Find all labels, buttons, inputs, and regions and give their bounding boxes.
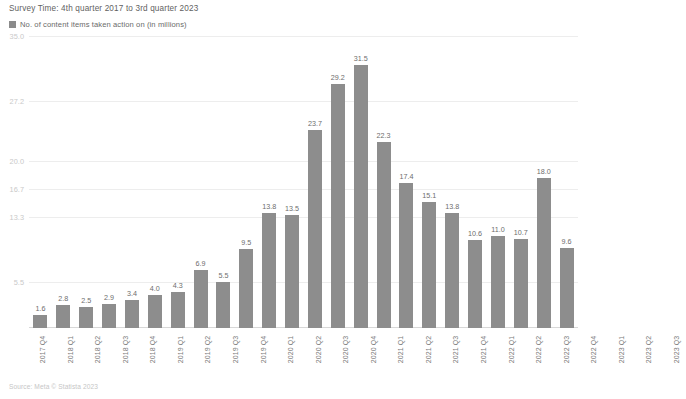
bar-value-label: 22.3 <box>377 131 391 140</box>
y-axis-tick-label: 13.3 <box>10 213 24 222</box>
x-axis-tick-label: 2023 Q1 <box>618 336 625 364</box>
x-axis-tick-label: 2021 Q3 <box>453 336 460 364</box>
legend-swatch-icon <box>9 21 16 28</box>
x-axis-tick-label: 2020 Q3 <box>342 336 349 364</box>
x-axis-tick-label: 2019 Q3 <box>232 336 239 364</box>
bar-value-label: 3.4 <box>127 289 137 298</box>
bar-value-label: 9.5 <box>241 238 251 247</box>
bar[interactable]: 9.5 <box>239 249 253 328</box>
bar[interactable]: 23.7 <box>308 130 322 328</box>
bar-value-label: 10.7 <box>514 228 528 237</box>
x-axis-tick-label: 2019 Q2 <box>205 336 212 364</box>
x-axis-tick: 2018 Q4 <box>139 330 167 376</box>
x-axis-tick: 2022 Q3 <box>553 330 581 376</box>
bar-slot: 6.9 <box>189 36 212 328</box>
bar-slot: 13.5 <box>281 36 304 328</box>
x-axis-tick-label: 2018 Q3 <box>122 336 129 364</box>
x-axis-tick-label: 2021 Q1 <box>398 336 405 364</box>
x-axis-tick-label: 2021 Q2 <box>425 336 432 364</box>
x-axis-tick: 2023 Q2 <box>635 330 663 376</box>
x-axis-tick: 2020 Q1 <box>277 330 305 376</box>
bar[interactable]: 10.6 <box>468 240 482 328</box>
bar-slot: 29.2 <box>326 36 349 328</box>
bar-slot: 31.5 <box>349 36 372 328</box>
bar[interactable]: 9.6 <box>560 248 574 328</box>
bar[interactable]: 3.4 <box>125 300 139 328</box>
x-axis-tick: 2020 Q4 <box>360 330 388 376</box>
x-axis-tick-label: 2018 Q4 <box>150 336 157 364</box>
bar[interactable]: 22.3 <box>377 142 391 328</box>
x-axis-tick-label: 2022 Q1 <box>508 336 515 364</box>
bar[interactable]: 4.0 <box>148 295 162 328</box>
bar-slot: 4.0 <box>143 36 166 328</box>
bar[interactable]: 5.5 <box>216 282 230 328</box>
bar[interactable]: 31.5 <box>354 65 368 328</box>
y-axis-tick-label: 20.0 <box>10 157 24 166</box>
bar-value-label: 18.0 <box>537 167 551 176</box>
bar-value-label: 5.5 <box>218 271 228 280</box>
bar-slot: 1.6 <box>29 36 52 328</box>
bar[interactable]: 2.5 <box>79 307 93 328</box>
bar[interactable]: 6.9 <box>194 270 208 328</box>
bar-value-label: 13.5 <box>285 204 299 213</box>
bar[interactable]: 4.3 <box>171 292 185 328</box>
bar-value-label: 13.8 <box>445 202 459 211</box>
chart-legend: No. of content items taken action on (in… <box>9 20 187 29</box>
bar[interactable]: 2.9 <box>102 304 116 328</box>
bar[interactable]: 17.4 <box>399 183 413 328</box>
bar-value-label: 2.5 <box>81 296 91 305</box>
x-axis-tick: 2022 Q4 <box>580 330 608 376</box>
x-axis-tick: 2018 Q3 <box>112 330 140 376</box>
bar-value-label: 31.5 <box>354 54 368 63</box>
legend-entry-label: No. of content items taken action on (in… <box>20 20 187 29</box>
bar[interactable]: 13.8 <box>445 213 459 328</box>
bar-value-label: 11.0 <box>491 225 504 234</box>
bar-value-label: 10.6 <box>468 229 482 238</box>
x-axis-tick-label: 2018 Q1 <box>67 336 74 364</box>
bar-slot: 9.5 <box>235 36 258 328</box>
bar[interactable]: 18.0 <box>537 178 551 328</box>
bar-slot: 17.4 <box>395 36 418 328</box>
y-axis-tick-label: 16.7 <box>10 184 24 193</box>
x-axis-tick: 2021 Q2 <box>415 330 443 376</box>
bar-slot: 9.6 <box>555 36 578 328</box>
x-axis-tick: 2022 Q1 <box>498 330 526 376</box>
x-axis-tick: 2021 Q3 <box>442 330 470 376</box>
bar[interactable]: 13.5 <box>285 215 299 328</box>
bar-slot: 5.5 <box>212 36 235 328</box>
x-axis-tick: 2019 Q1 <box>167 330 195 376</box>
x-axis-tick-label: 2021 Q4 <box>480 336 487 364</box>
x-axis-tick: 2018 Q1 <box>57 330 85 376</box>
bar-slot: 2.8 <box>52 36 75 328</box>
bar-value-label: 23.7 <box>308 119 322 128</box>
bars-group: 1.62.82.52.93.44.04.36.95.59.513.813.523… <box>29 36 578 328</box>
bar-value-label: 9.6 <box>562 237 572 246</box>
survey-time-caption: Survey Time: 4th quarter 2017 to 3rd qua… <box>9 4 198 13</box>
bar[interactable]: 29.2 <box>331 84 345 328</box>
bar-slot: 2.9 <box>98 36 121 328</box>
bar[interactable]: 11.0 <box>491 236 505 328</box>
bar[interactable]: 1.6 <box>33 315 47 328</box>
bar-slot: 13.8 <box>258 36 281 328</box>
bar-slot: 10.7 <box>509 36 532 328</box>
x-axis-tick-label: 2017 Q4 <box>39 336 46 364</box>
bar-value-label: 2.9 <box>104 293 114 302</box>
bar[interactable]: 2.8 <box>56 305 70 328</box>
bar-value-label: 29.2 <box>331 73 345 82</box>
x-axis-tick: 2019 Q3 <box>222 330 250 376</box>
bar-slot: 18.0 <box>532 36 555 328</box>
bar-value-label: 4.3 <box>173 281 183 290</box>
bar-slot: 3.4 <box>121 36 144 328</box>
bar[interactable]: 13.8 <box>262 213 276 328</box>
bar-value-label: 4.0 <box>150 284 160 293</box>
bar-slot: 2.5 <box>75 36 98 328</box>
bar-slot: 23.7 <box>304 36 327 328</box>
bar-slot: 15.1 <box>418 36 441 328</box>
bar[interactable]: 15.1 <box>422 202 436 328</box>
y-axis-tick-label: 27.2 <box>10 97 24 106</box>
x-axis-tick-label: 2018 Q2 <box>94 336 101 364</box>
bar[interactable]: 10.7 <box>514 239 528 328</box>
bar-value-label: 2.8 <box>58 294 68 303</box>
x-axis-tick: 2017 Q4 <box>29 330 57 376</box>
x-axis-tick-labels: 2017 Q42018 Q12018 Q22018 Q32018 Q42019 … <box>29 330 578 376</box>
